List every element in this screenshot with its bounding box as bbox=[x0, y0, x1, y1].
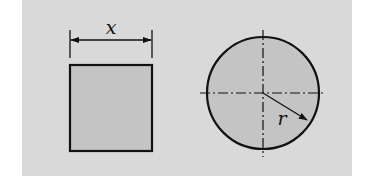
circle-figure: r bbox=[200, 30, 326, 157]
square-shape bbox=[70, 65, 152, 151]
square-side-label: x bbox=[106, 16, 117, 38]
geometry-diagram: x r bbox=[0, 0, 372, 177]
square-figure: x bbox=[70, 16, 152, 151]
